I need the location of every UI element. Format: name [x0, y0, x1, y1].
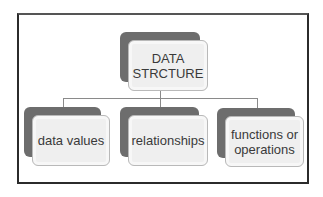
root-node-box: DATA STRCTURE: [128, 40, 208, 91]
connector-right-drop: [257, 98, 258, 108]
child-node-label: data values: [38, 133, 105, 148]
child-node-box: data values: [32, 115, 110, 166]
root-node-label-line2: STRCTURE: [133, 66, 204, 81]
child-node-box: functions or operations: [225, 116, 304, 167]
child-node-box: relationships: [128, 115, 208, 166]
child-node-label: relationships: [132, 133, 205, 148]
child-node-label-line1: functions or: [231, 127, 298, 142]
child-node-label-line2: operations: [231, 142, 298, 157]
root-node-label-line1: DATA: [133, 51, 204, 66]
